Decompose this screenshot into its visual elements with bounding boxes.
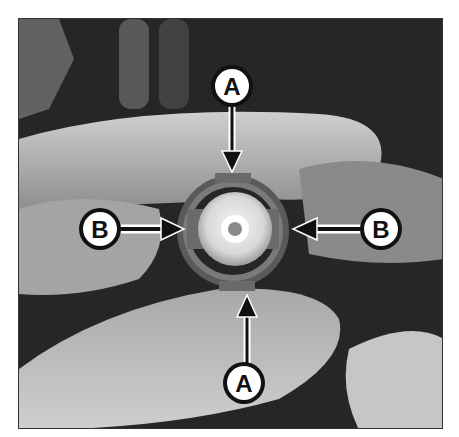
- callout-label: A: [223, 73, 240, 100]
- photo-illustration: A A B B: [19, 19, 443, 429]
- callout-bottom-a: A: [223, 362, 265, 404]
- callout-top-a: A: [211, 65, 253, 107]
- callout-label: A: [235, 370, 252, 397]
- photo: A A B B: [18, 18, 443, 429]
- wire-shape: [119, 19, 149, 109]
- callout-right-b: B: [360, 208, 402, 250]
- callout-left-b: B: [79, 208, 121, 250]
- finger-bottom-right: [346, 331, 443, 429]
- wire-shape: [159, 19, 189, 109]
- callout-label: B: [91, 216, 108, 243]
- callout-label: B: [372, 216, 389, 243]
